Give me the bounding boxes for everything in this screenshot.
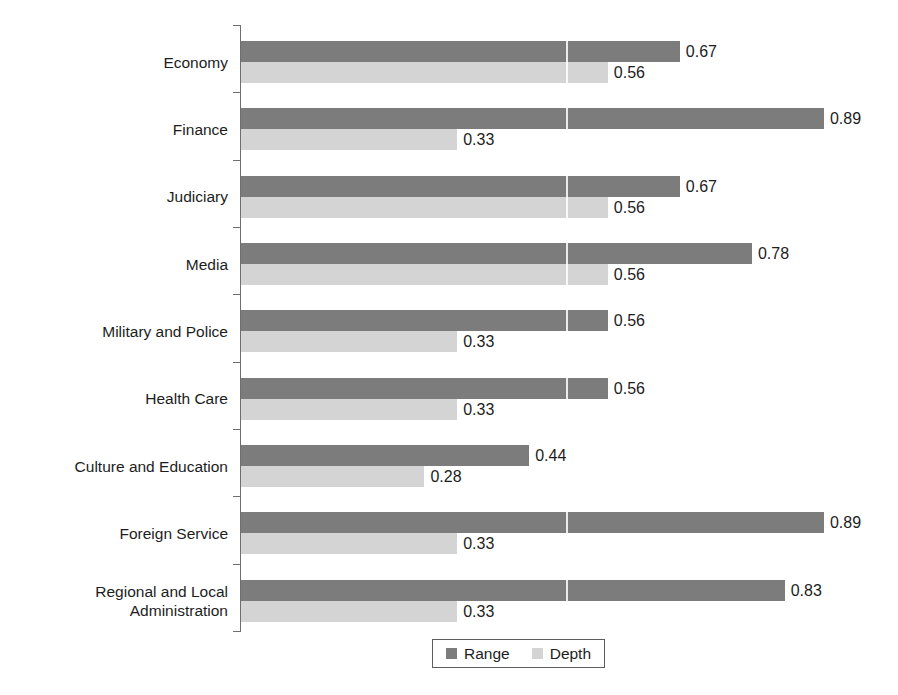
chart-row: Health Care0.560.33	[0, 362, 898, 429]
bar-value-label: 0.56	[608, 62, 645, 83]
bar-range: 0.67	[241, 41, 680, 62]
bar-group: 0.890.33	[241, 512, 824, 554]
bar-range: 0.89	[241, 512, 824, 533]
bar-chart: Economy0.670.56Finance0.890.33Judiciary0…	[0, 0, 898, 695]
bar-value-label: 0.89	[824, 512, 861, 533]
y-axis-tick	[233, 631, 241, 632]
chart-row: Culture and Education0.440.28	[0, 429, 898, 496]
legend-label-depth: Depth	[550, 645, 591, 662]
legend-label-range: Range	[464, 645, 510, 662]
bar-range: 0.44	[241, 445, 529, 466]
category-label: Military and Police	[0, 322, 228, 341]
bar-depth: 0.56	[241, 264, 608, 285]
plot-gridline	[566, 512, 568, 554]
chart-row: Regional and Local Administration0.830.3…	[0, 564, 898, 631]
plot-gridline	[566, 310, 568, 352]
plot-gridline	[566, 378, 568, 420]
bar-depth: 0.56	[241, 62, 608, 83]
bar-range: 0.78	[241, 243, 752, 264]
chart-row: Economy0.670.56	[0, 25, 898, 92]
plot-gridline	[566, 108, 568, 150]
bar-value-label: 0.33	[457, 399, 494, 420]
category-label: Media	[0, 255, 228, 274]
plot-gridline	[566, 445, 568, 487]
category-label: Foreign Service	[0, 524, 228, 543]
bar-depth: 0.33	[241, 331, 457, 352]
chart-row: Military and Police0.560.33	[0, 294, 898, 361]
bar-range: 0.56	[241, 378, 608, 399]
category-label: Health Care	[0, 389, 228, 408]
bar-range: 0.83	[241, 580, 785, 601]
bar-depth: 0.33	[241, 129, 457, 150]
category-label: Economy	[0, 53, 228, 72]
bar-range: 0.56	[241, 310, 608, 331]
bar-group: 0.670.56	[241, 41, 680, 83]
bar-value-label: 0.33	[457, 129, 494, 150]
category-label: Culture and Education	[0, 457, 228, 476]
bar-range: 0.67	[241, 176, 680, 197]
bar-group: 0.670.56	[241, 176, 680, 218]
bar-value-label: 0.67	[680, 176, 717, 197]
chart-row: Foreign Service0.890.33	[0, 496, 898, 563]
bar-depth: 0.28	[241, 466, 424, 487]
legend-swatch-depth	[532, 648, 543, 659]
bar-depth: 0.33	[241, 533, 457, 554]
chart-row: Finance0.890.33	[0, 92, 898, 159]
plot-gridline	[566, 176, 568, 218]
bar-depth: 0.33	[241, 601, 457, 622]
legend-item-depth: Depth	[532, 645, 591, 662]
bar-value-label: 0.56	[608, 197, 645, 218]
legend-item-range: Range	[446, 645, 510, 662]
plot-gridline	[566, 243, 568, 285]
bar-group: 0.890.33	[241, 108, 824, 150]
bar-value-label: 0.33	[457, 601, 494, 622]
chart-row: Media0.780.56	[0, 227, 898, 294]
bar-depth: 0.33	[241, 399, 457, 420]
chart-legend: Range Depth	[432, 639, 605, 668]
plot-gridline	[566, 41, 568, 83]
bar-value-label: 0.83	[785, 580, 822, 601]
bar-group: 0.830.33	[241, 580, 785, 622]
bar-group: 0.560.33	[241, 310, 608, 352]
plot-gridline	[566, 580, 568, 622]
bar-range: 0.89	[241, 108, 824, 129]
bar-group: 0.560.33	[241, 378, 608, 420]
bar-value-label: 0.56	[608, 378, 645, 399]
category-label: Finance	[0, 120, 228, 139]
bar-group: 0.440.28	[241, 445, 529, 487]
category-label: Judiciary	[0, 187, 228, 206]
bar-depth: 0.56	[241, 197, 608, 218]
legend-swatch-range	[446, 648, 457, 659]
bar-value-label: 0.56	[608, 310, 645, 331]
bar-value-label: 0.33	[457, 533, 494, 554]
category-label: Regional and Local Administration	[0, 582, 228, 620]
bar-value-label: 0.56	[608, 264, 645, 285]
bar-value-label: 0.89	[824, 108, 861, 129]
bar-value-label: 0.28	[424, 466, 461, 487]
bar-value-label: 0.44	[529, 445, 566, 466]
bar-value-label: 0.67	[680, 41, 717, 62]
bar-group: 0.780.56	[241, 243, 752, 285]
bar-value-label: 0.78	[752, 243, 789, 264]
chart-row: Judiciary0.670.56	[0, 160, 898, 227]
bar-value-label: 0.33	[457, 331, 494, 352]
